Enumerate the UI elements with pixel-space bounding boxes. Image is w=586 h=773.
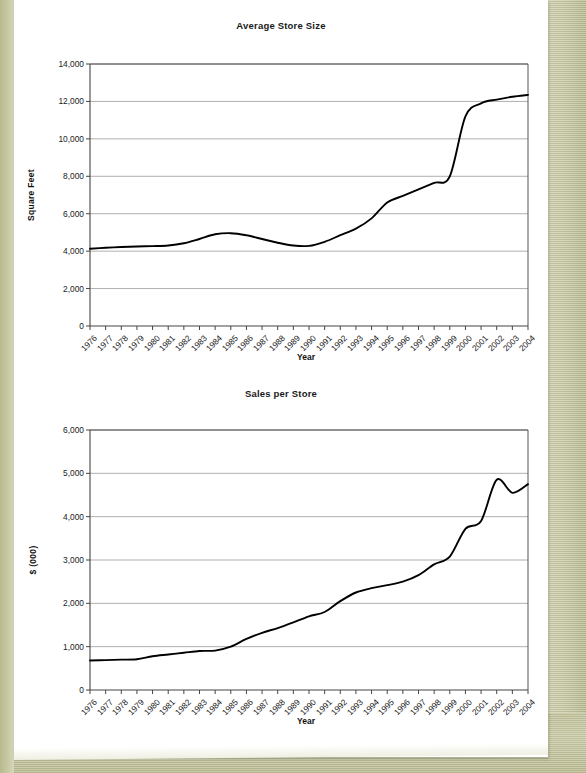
- page-root: Average Store Size 02,0004,0006,0008,000…: [0, 0, 586, 773]
- page-background-left-strip: [0, 0, 14, 773]
- y-tick-label: 14,000: [58, 59, 84, 69]
- chart-average-store-size: Average Store Size 02,0004,0006,0008,000…: [14, 4, 548, 374]
- x-axis-title: Year: [297, 352, 315, 362]
- chart1-title: Average Store Size: [14, 4, 548, 34]
- y-tick-label: 0: [79, 321, 84, 331]
- y-axis-title: $ (000): [28, 545, 38, 574]
- y-tick-label: 10,000: [58, 134, 84, 144]
- y-axis-title: Square Feet: [26, 169, 36, 221]
- y-tick-label: 4,000: [63, 512, 84, 522]
- chart2-plot-canvas: 01,0002,0003,0004,0005,0006,000197619771…: [14, 402, 548, 732]
- paper-sheet: Average Store Size 02,0004,0006,0008,000…: [14, 0, 548, 757]
- chart2-title: Sales per Store: [14, 372, 548, 402]
- y-tick-label: 3,000: [63, 555, 84, 565]
- chart-sales-per-store: Sales per Store 01,0002,0003,0004,0005,0…: [14, 372, 548, 732]
- sales-per-store-svg: [14, 402, 548, 732]
- y-tick-label: 0: [79, 685, 84, 695]
- y-tick-label: 2,000: [63, 598, 84, 608]
- data-series-line: [90, 479, 528, 660]
- average-store-size-svg: [14, 34, 548, 374]
- x-axis-title: Year: [297, 716, 315, 726]
- y-tick-label: 12,000: [58, 96, 84, 106]
- y-tick-label: 8,000: [63, 171, 84, 181]
- y-tick-label: 5,000: [63, 468, 84, 478]
- chart1-plot-canvas: 02,0004,0006,0008,00010,00012,00014,0001…: [14, 34, 548, 374]
- data-series-line: [90, 95, 528, 249]
- y-tick-label: 6,000: [63, 425, 84, 435]
- y-tick-label: 6,000: [63, 209, 84, 219]
- y-tick-label: 4,000: [63, 246, 84, 256]
- y-tick-label: 1,000: [63, 642, 84, 652]
- y-tick-label: 2,000: [63, 284, 84, 294]
